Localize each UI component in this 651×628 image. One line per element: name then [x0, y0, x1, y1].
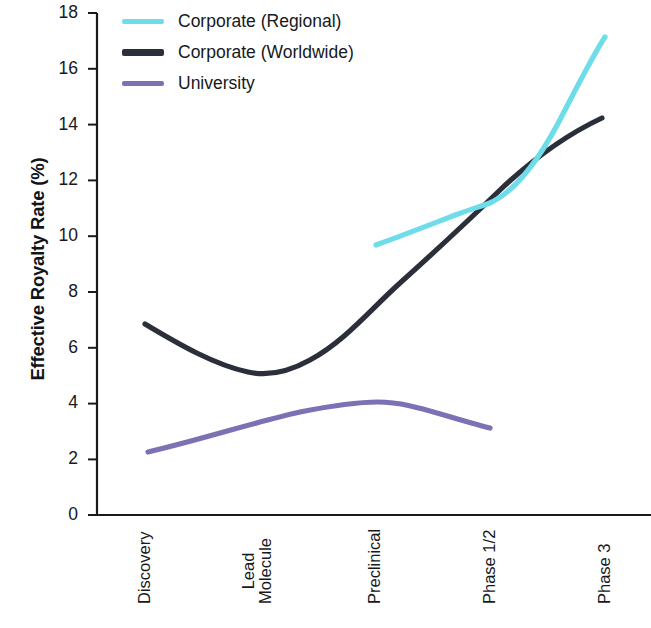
y-axis-ticks — [88, 13, 97, 515]
series-line-corporate-regional — [376, 37, 605, 245]
legend-swatch-corporate-worldwide — [122, 49, 164, 56]
x-tick-label-phase-3: Phase 3 — [596, 543, 613, 604]
y-tick-label-0: 0 — [44, 506, 78, 524]
legend-item-university: University — [122, 68, 354, 99]
y-tick-label-2: 2 — [44, 450, 78, 468]
y-tick-label-8: 8 — [44, 283, 78, 301]
legend: Corporate (Regional) Corporate (Worldwid… — [122, 6, 354, 99]
y-tick-label-6: 6 — [44, 339, 78, 357]
legend-label-corporate-regional: Corporate (Regional) — [178, 11, 341, 32]
y-tick-label-14: 14 — [44, 116, 78, 134]
legend-item-corporate-regional: Corporate (Regional) — [122, 6, 354, 37]
x-tick-label-discovery: Discovery — [136, 532, 153, 604]
x-tick-label-phase-1-2: Phase 1/2 — [481, 530, 498, 604]
legend-item-corporate-worldwide: Corporate (Worldwide) — [122, 37, 354, 68]
y-axis-title: Effective Royalty Rate (%) — [27, 109, 49, 429]
x-tick-label-lead-molecule-line1: Lead — [239, 553, 257, 590]
x-tick-label-lead-molecule: Lead Molecule — [240, 538, 275, 604]
legend-label-corporate-worldwide: Corporate (Worldwide) — [178, 42, 354, 63]
series-line-corporate-worldwide — [145, 118, 602, 374]
y-tick-label-4: 4 — [44, 394, 78, 412]
y-tick-label-16: 16 — [44, 60, 78, 78]
x-tick-label-lead-molecule-line2: Molecule — [257, 538, 274, 604]
royalty-rate-line-chart: Effective Royalty Rate (%) 18 16 14 12 1… — [0, 0, 651, 628]
x-tick-label-preclinical: Preclinical — [366, 529, 383, 604]
y-tick-label-18: 18 — [44, 4, 78, 22]
legend-swatch-corporate-regional — [122, 19, 164, 24]
legend-swatch-university — [122, 81, 164, 86]
series-line-university — [148, 402, 490, 452]
y-tick-label-12: 12 — [44, 171, 78, 189]
legend-label-university: University — [178, 73, 255, 94]
y-tick-label-10: 10 — [44, 227, 78, 245]
